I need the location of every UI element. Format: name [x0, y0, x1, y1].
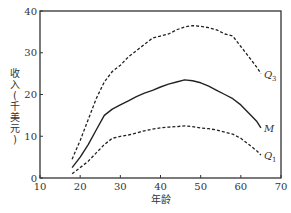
- series-m-label: M: [263, 123, 275, 134]
- y-axis-label-char: 元: [10, 123, 20, 134]
- series-q1-line: [72, 126, 261, 174]
- series-q3-label: Q: [264, 69, 272, 80]
- y-tick-label: 30: [24, 47, 37, 58]
- series-q1-label: Q: [264, 150, 272, 161]
- y-tick-label: 10: [24, 131, 37, 142]
- income-by-age-chart: 10203040506070010203040年龄收入(千美元)Q3MQ1: [0, 0, 291, 213]
- series-q1-label-subscript: 1: [272, 156, 276, 164]
- series-q3-line: [72, 26, 261, 160]
- chart-canvas: 10203040506070010203040年龄收入(千美元)Q3MQ1: [0, 0, 291, 213]
- y-axis-label-char: (: [13, 90, 17, 101]
- y-axis-label-char: 入: [10, 79, 20, 90]
- x-tick-label: 30: [114, 181, 127, 192]
- x-tick-label: 20: [74, 181, 87, 192]
- y-axis-label-char: 收: [10, 67, 20, 79]
- x-tick-label: 70: [275, 181, 288, 192]
- y-axis-label-char: 千: [10, 101, 20, 112]
- y-tick-label: 0: [31, 173, 37, 184]
- x-tick-label: 50: [194, 181, 207, 192]
- y-axis-label-char: 美: [10, 111, 20, 123]
- y-tick-label: 20: [24, 89, 37, 100]
- series-m-line: [72, 80, 261, 168]
- series-q3-label-subscript: 3: [272, 75, 276, 83]
- x-tick-label: 60: [234, 181, 247, 192]
- y-axis-label-char: ): [13, 134, 17, 145]
- y-tick-label: 40: [24, 6, 37, 17]
- x-tick-label: 40: [154, 181, 167, 192]
- x-axis-label: 年龄: [151, 193, 171, 205]
